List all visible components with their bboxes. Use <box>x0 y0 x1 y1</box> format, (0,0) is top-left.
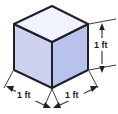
cube-svg: 1 ft 1 ft <box>0 0 118 114</box>
depth-extension-right <box>89 71 98 88</box>
depth-arrow-right-icon <box>90 86 98 92</box>
height-dimension: 1 ft <box>89 19 116 73</box>
depth-label: 1 ft <box>65 90 79 100</box>
height-label: 1 ft <box>94 40 108 50</box>
height-extension-top <box>89 19 116 24</box>
width-arrow-right-icon <box>43 102 51 108</box>
cube-shape <box>14 6 88 88</box>
width-arrow-left-icon <box>6 86 14 92</box>
cube-diagram: 1 ft 1 ft <box>0 0 118 114</box>
height-arrow-down-icon <box>99 66 105 73</box>
height-arrow-up-icon <box>99 23 105 30</box>
width-extension-left <box>4 71 13 88</box>
depth-extension-left <box>52 89 59 105</box>
width-extension-right <box>45 89 52 105</box>
width-label: 1 ft <box>17 90 31 100</box>
depth-arrow-left-icon <box>53 102 61 108</box>
